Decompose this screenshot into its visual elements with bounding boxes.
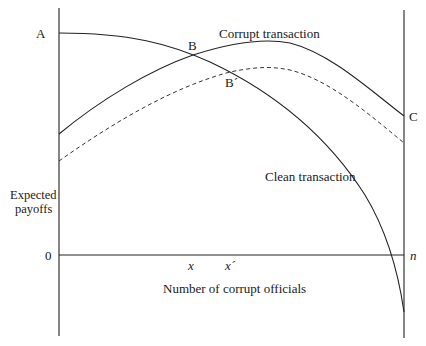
x-tick-label-n: n xyxy=(410,248,417,263)
y-axis-label-line2: payoffs xyxy=(15,202,52,216)
x-tick-label-x: x xyxy=(187,258,194,273)
x-axis-label: Number of corrupt officials xyxy=(163,281,306,296)
point-label-a: A xyxy=(36,26,46,41)
payoff-diagram: A B B´ C Corrupt transaction Clean trans… xyxy=(0,0,426,346)
corrupt-transaction-label: Corrupt transaction xyxy=(219,26,320,41)
zero-label: 0 xyxy=(45,248,52,263)
point-label-b-prime: B´ xyxy=(225,75,238,90)
x-tick-label-x-prime: x´ xyxy=(224,258,236,273)
clean-transaction-label: Clean transaction xyxy=(265,169,356,184)
point-label-b: B xyxy=(188,38,197,53)
y-axis-label-line1: Expected xyxy=(10,188,57,202)
point-label-c: C xyxy=(409,109,418,124)
